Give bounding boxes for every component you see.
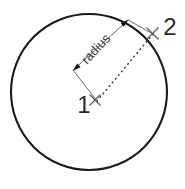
- diagram-canvas: radius 1 2: [0, 0, 185, 189]
- radius-dimension-label: radius: [78, 31, 113, 67]
- point-2-label: 2: [163, 13, 176, 40]
- point-2-x-marker: [147, 28, 159, 40]
- circle-radius-diagram: radius 1 2: [0, 0, 185, 189]
- point-1-label: 1: [77, 91, 90, 118]
- point-1-x-marker: [90, 95, 101, 106]
